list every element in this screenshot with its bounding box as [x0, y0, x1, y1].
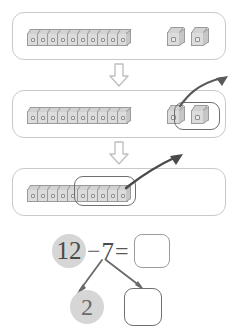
takeaway-arrow-icon: [120, 152, 190, 190]
step-arrow-1-icon: [108, 63, 130, 87]
cube-side-face: [179, 28, 185, 46]
number-bond-right-part-box[interactable]: [124, 288, 162, 326]
takeaway-arrow-icon: [176, 74, 236, 108]
number-bond-group: 2: [56, 266, 186, 324]
loose-cube-group: [167, 32, 204, 46]
number-bond-left-part: 2: [70, 290, 104, 324]
ten-stick: [27, 111, 131, 124]
stick-end-face: [126, 30, 131, 46]
cube-side-face: [203, 28, 209, 46]
equation-subtrahend: 7: [102, 239, 115, 264]
loose-cube: [167, 32, 180, 46]
stick-end-face: [126, 108, 131, 124]
ten-stick: [27, 33, 131, 46]
equation-equals-sign: =: [115, 239, 129, 263]
equation-answer-box[interactable]: [134, 234, 170, 268]
loose-cube: [191, 32, 204, 46]
equation-minus-operator: −: [87, 239, 101, 263]
equation-minuend: 12: [52, 234, 86, 268]
initial-quantity-panel: [12, 12, 226, 60]
